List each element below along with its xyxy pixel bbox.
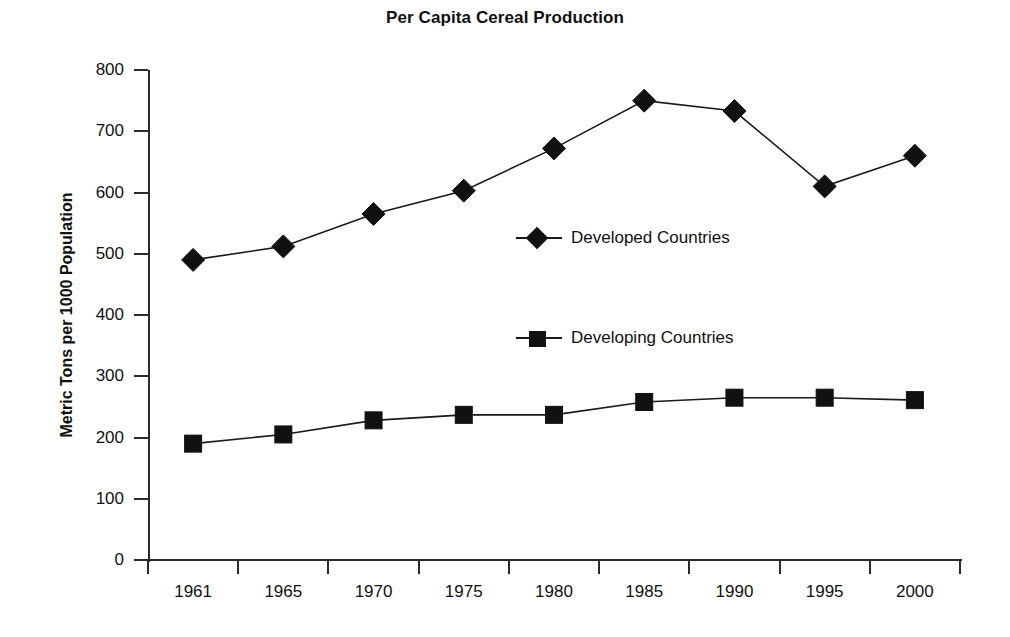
x-tick-mark [327,560,329,574]
x-axis-line [134,559,962,561]
x-tick-mark [598,560,600,574]
x-tick-mark [869,560,871,574]
x-tick-mark [959,560,961,574]
y-tick-mark [134,498,148,500]
data-point-marker [362,202,385,225]
x-tick-label: 1975 [419,582,509,602]
x-tick-label: 1970 [329,582,419,602]
chart-title: Per Capita Cereal Production [0,8,1010,28]
data-point-marker [726,389,743,406]
y-tick-mark [134,192,148,194]
chart-figure: Per Capita Cereal Production Metric Tons… [0,0,1010,637]
diamond-marker-icon [516,227,562,249]
y-tick-label: 500 [64,244,124,264]
y-tick-mark [134,253,148,255]
y-tick-mark [134,375,148,377]
legend-item-developing-countries[interactable]: Developing Countries [516,327,734,349]
series-line [193,398,915,444]
y-tick-mark [134,559,148,561]
x-tick-label: 1961 [148,582,238,602]
x-tick-mark [418,560,420,574]
legend-item-developed-countries[interactable]: Developed Countries [516,227,730,249]
x-tick-mark [147,560,149,574]
data-point-marker [543,137,566,160]
data-point-marker [903,144,926,167]
data-point-marker [365,412,382,429]
data-point-marker [723,100,746,123]
data-point-marker [813,175,836,198]
data-point-marker [636,393,653,410]
y-tick-label: 100 [64,489,124,509]
data-point-marker [906,392,923,409]
y-tick-label: 400 [64,305,124,325]
x-tick-label: 1990 [689,582,779,602]
x-tick-mark [237,560,239,574]
y-tick-label: 700 [64,121,124,141]
data-point-marker [633,89,656,112]
y-tick-mark [134,437,148,439]
data-point-marker [546,406,563,423]
x-tick-label: 1980 [509,582,599,602]
y-tick-mark [134,130,148,132]
x-tick-label: 1995 [780,582,870,602]
y-tick-label: 800 [64,60,124,80]
plot-series-layer [0,0,1010,637]
y-tick-mark [134,69,148,71]
x-tick-mark [688,560,690,574]
y-tick-label: 600 [64,183,124,203]
legend-label-developing: Developing Countries [571,328,734,348]
x-tick-mark [508,560,510,574]
y-tick-label: 200 [64,428,124,448]
data-point-marker [272,235,295,258]
x-tick-label: 1965 [238,582,328,602]
square-marker-icon [516,327,562,349]
data-point-marker [455,406,472,423]
x-tick-label: 2000 [870,582,960,602]
x-tick-label: 1985 [599,582,689,602]
data-point-marker [182,248,205,271]
data-point-marker [185,435,202,452]
y-tick-label: 300 [64,366,124,386]
data-point-marker [452,179,475,202]
y-tick-label: 0 [64,550,124,570]
y-tick-mark [134,314,148,316]
data-point-marker [816,389,833,406]
legend-label-developed: Developed Countries [571,228,730,248]
y-axis-line [148,70,150,562]
x-tick-mark [779,560,781,574]
data-point-marker [275,426,292,443]
